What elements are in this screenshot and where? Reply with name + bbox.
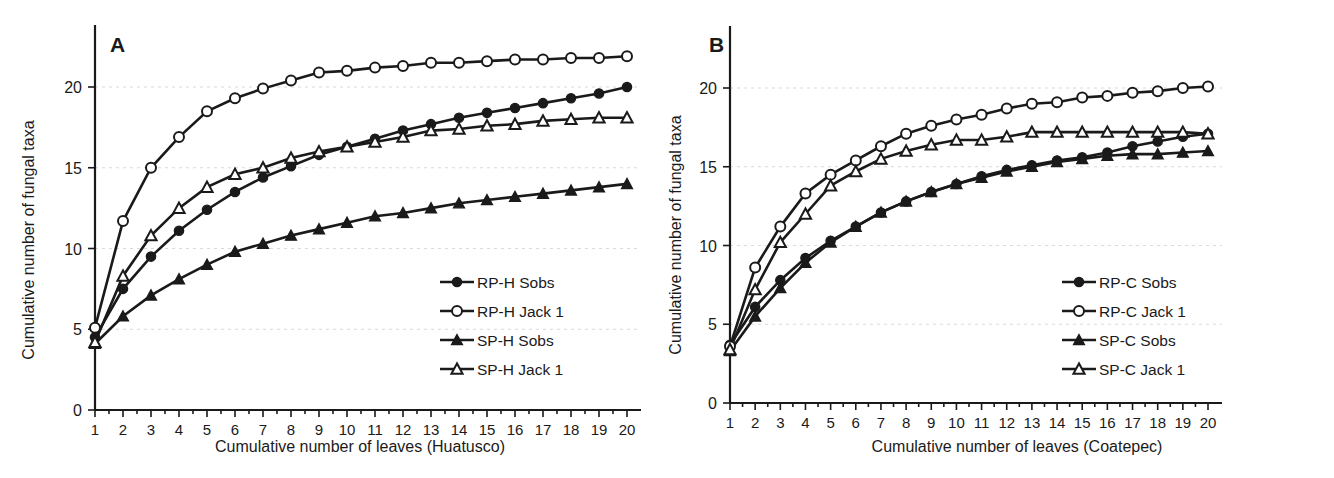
data-point-open-circle xyxy=(314,67,324,77)
legend-label: SP-H Jack 1 xyxy=(477,361,563,378)
data-point-filled-circle xyxy=(258,173,267,182)
data-point-open-circle xyxy=(1077,92,1087,102)
data-point-open-triangle xyxy=(341,141,352,151)
x-tick-label: 14 xyxy=(1049,414,1066,431)
y-tick-label: 5 xyxy=(708,316,717,333)
data-point-open-circle xyxy=(454,58,464,68)
data-point-open-circle xyxy=(258,84,268,94)
data-point-filled-triangle xyxy=(174,274,185,284)
legend-item-rp-c-jack-1[interactable]: RP-C Jack 1 xyxy=(1062,303,1186,320)
y-tick-label: 20 xyxy=(64,79,82,96)
data-point-filled-circle xyxy=(1074,277,1083,286)
data-point-open-circle xyxy=(398,61,408,71)
data-point-open-circle xyxy=(230,93,240,103)
data-point-open-triangle xyxy=(750,284,761,294)
panel-b-x-axis-title: Cumulative number of leaves (Coatepec) xyxy=(872,438,1163,455)
series-markers-sp-h-sobs xyxy=(90,179,633,349)
data-point-open-circle xyxy=(286,76,296,86)
legend-item-sp-h-jack-1[interactable]: SP-H Jack 1 xyxy=(440,361,563,378)
data-point-filled-circle xyxy=(230,187,239,196)
data-point-filled-circle xyxy=(174,226,183,235)
x-tick-label: 16 xyxy=(507,421,524,438)
data-point-open-triangle xyxy=(1073,363,1084,373)
y-tick-label: 20 xyxy=(699,80,717,97)
panel-a-axes xyxy=(88,25,641,417)
x-tick-label: 13 xyxy=(423,421,440,438)
panel-a-x-axis-title: Cumulative number of leaves (Huatusco) xyxy=(215,438,505,455)
data-point-open-circle xyxy=(146,163,156,173)
data-point-open-circle xyxy=(174,132,184,142)
x-tick-label: 8 xyxy=(287,421,295,438)
data-point-open-circle xyxy=(1203,81,1213,91)
x-tick-label: 2 xyxy=(119,421,127,438)
data-point-open-triangle xyxy=(451,363,462,373)
series-line-sp-c-sobs xyxy=(730,151,1208,351)
legend-label: SP-C Jack 1 xyxy=(1099,361,1185,378)
data-point-open-triangle xyxy=(1077,127,1088,137)
legend-item-sp-c-jack-1[interactable]: SP-C Jack 1 xyxy=(1062,361,1185,378)
x-tick-label: 18 xyxy=(1149,414,1166,431)
data-point-open-circle xyxy=(876,141,886,151)
data-point-open-triangle xyxy=(313,146,324,156)
data-point-filled-circle xyxy=(146,252,155,261)
x-tick-label: 16 xyxy=(1099,414,1116,431)
panel-b-y-axis-title: Cumulative number of fungal taxa xyxy=(667,115,684,354)
x-tick-label: 13 xyxy=(1024,414,1041,431)
y-tick-label: 10 xyxy=(699,238,717,255)
data-point-open-circle xyxy=(538,55,548,65)
panel-a-svg: 051015201234567891011121314151617181920 … xyxy=(0,0,667,478)
data-point-open-circle xyxy=(750,263,760,273)
x-tick-label: 19 xyxy=(1174,414,1191,431)
data-point-open-circle xyxy=(800,189,810,199)
data-point-filled-circle xyxy=(622,82,631,91)
y-tick-label: 15 xyxy=(64,160,82,177)
data-point-open-triangle xyxy=(257,162,268,172)
legend-label: RP-C Sobs xyxy=(1099,274,1177,291)
data-point-open-triangle xyxy=(201,182,212,192)
x-tick-label: 7 xyxy=(877,414,885,431)
x-tick-label: 12 xyxy=(395,421,412,438)
data-point-open-triangle xyxy=(875,153,886,163)
x-tick-label: 15 xyxy=(1074,414,1091,431)
chart-panel-b: 051015201234567891011121314151617181920 … xyxy=(667,0,1334,478)
x-tick-label: 7 xyxy=(259,421,267,438)
data-point-filled-circle xyxy=(118,284,127,293)
data-point-filled-circle xyxy=(202,205,211,214)
panel-b-axes xyxy=(723,26,1222,410)
data-point-open-circle xyxy=(1153,86,1163,96)
y-tick-label: 0 xyxy=(708,395,717,412)
data-point-open-triangle xyxy=(850,166,861,176)
x-tick-label: 6 xyxy=(852,414,860,431)
y-tick-label: 0 xyxy=(73,402,82,419)
data-point-open-triangle xyxy=(537,115,548,125)
figure-root: 051015201234567891011121314151617181920 … xyxy=(0,0,1334,478)
data-point-open-circle xyxy=(594,53,604,63)
data-point-open-triangle xyxy=(453,123,464,133)
x-tick-label: 17 xyxy=(1124,414,1141,431)
data-point-open-circle xyxy=(426,58,436,68)
data-point-filled-circle xyxy=(594,89,603,98)
series-markers-sp-c-jack-1 xyxy=(724,127,1213,355)
legend-item-sp-c-sobs[interactable]: SP-C Sobs xyxy=(1062,332,1176,349)
legend-item-rp-h-sobs[interactable]: RP-H Sobs xyxy=(440,274,555,291)
data-point-open-triangle xyxy=(1152,127,1163,137)
data-point-open-triangle xyxy=(285,152,296,162)
data-point-open-circle xyxy=(482,56,492,66)
panel-a-legend: RP-H SobsRP-H Jack 1SP-H SobsSP-H Jack 1 xyxy=(440,274,564,378)
legend-item-rp-h-jack-1[interactable]: RP-H Jack 1 xyxy=(440,303,564,320)
data-point-open-circle xyxy=(951,115,961,125)
x-tick-label: 1 xyxy=(91,421,99,438)
legend-item-sp-h-sobs[interactable]: SP-H Sobs xyxy=(440,332,554,349)
panel-letter-a: A xyxy=(110,33,125,56)
x-tick-label: 20 xyxy=(1200,414,1217,431)
data-point-open-triangle xyxy=(976,134,987,144)
x-tick-label: 4 xyxy=(801,414,809,431)
data-point-open-triangle xyxy=(1177,127,1188,137)
x-tick-label: 20 xyxy=(619,421,636,438)
panel-a-y-axis-title: Cumulative number of fungal taxa xyxy=(20,120,37,359)
legend-item-rp-c-sobs[interactable]: RP-C Sobs xyxy=(1062,274,1177,291)
data-point-open-circle xyxy=(901,129,911,139)
x-tick-label: 11 xyxy=(974,414,990,431)
data-point-open-triangle xyxy=(1051,127,1062,137)
x-tick-label: 3 xyxy=(147,421,155,438)
